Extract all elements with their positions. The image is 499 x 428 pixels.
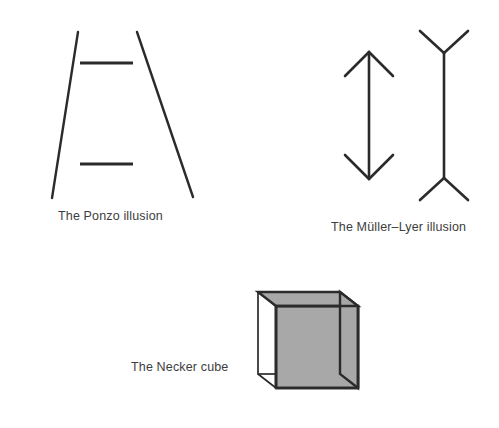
necker-cube-caption: The Necker cube	[131, 360, 228, 375]
muller-lyer-illusion-caption: The Müller–Lyer illusion	[331, 220, 466, 235]
ponzo-illusion-caption: The Ponzo illusion	[58, 209, 163, 224]
